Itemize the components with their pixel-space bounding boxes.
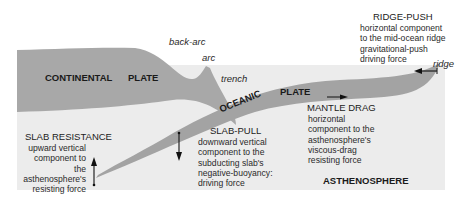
slab-resistance-title: SLAB RESISTANCE [25, 132, 112, 142]
slab-pull-description: downward vertical component to the subdu… [198, 137, 308, 188]
mantle-drag-description: horizontal component to the asthenospher… [308, 114, 408, 165]
trench-label: trench [221, 74, 247, 84]
slab-pull-title: SLAB-PULL [210, 126, 261, 136]
ridge-push-title: RIDGE-PUSH [373, 12, 433, 22]
arc-label: arc [202, 53, 215, 63]
back-arc-label: back-arc [169, 37, 205, 47]
mantle-drag-title: MANTLE DRAG [307, 103, 376, 113]
continental-label: CONTINENTAL [45, 73, 112, 83]
asthenosphere-label: ASTHENOSPHERE [323, 176, 409, 186]
oceanic-plate-label: PLATE [280, 87, 310, 97]
continental-plate-label: PLATE [128, 73, 158, 83]
ridge-push-description: horizontal component to the mid-ocean ri… [360, 23, 468, 64]
slab-resistance-description: upward vertical component to the astheno… [20, 143, 86, 194]
